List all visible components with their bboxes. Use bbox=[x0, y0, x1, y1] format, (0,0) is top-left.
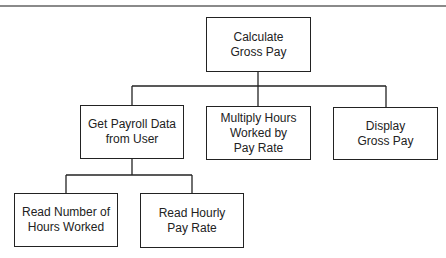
node-label: Read Hourly Pay Rate bbox=[159, 206, 226, 236]
node-read-pay-rate: Read Hourly Pay Rate bbox=[140, 193, 244, 248]
node-get-payroll-data: Get Payroll Data from User bbox=[80, 105, 184, 159]
node-label: Get Payroll Data from User bbox=[88, 117, 176, 147]
node-multiply-hours: Multiply Hours Worked by Pay Rate bbox=[206, 106, 311, 160]
node-label: Calculate Gross Pay bbox=[230, 30, 286, 60]
node-calculate-gross-pay: Calculate Gross Pay bbox=[206, 17, 311, 72]
node-read-hours-worked: Read Number of Hours Worked bbox=[14, 193, 118, 247]
node-label: Multiply Hours Worked by Pay Rate bbox=[220, 111, 296, 156]
node-label: Read Number of Hours Worked bbox=[22, 205, 110, 235]
node-label: Display Gross Pay bbox=[357, 119, 413, 149]
node-display-gross-pay: Display Gross Pay bbox=[333, 107, 438, 160]
